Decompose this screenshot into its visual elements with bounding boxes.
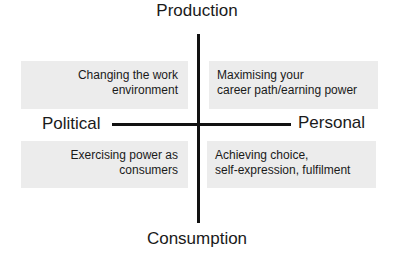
quadrant-text-line: environment <box>21 83 178 98</box>
axis-label-political: Political <box>42 114 101 134</box>
quadrant-text-line: Exercising power as <box>21 148 178 163</box>
axis-label-consumption: Consumption <box>0 229 394 249</box>
quadrant-text-line: Maximising your <box>217 68 378 83</box>
quadrant-top-right: Maximising your career path/earning powe… <box>209 61 378 109</box>
quadrant-top-left: Changing the work environment <box>21 61 188 109</box>
axis-label-production: Production <box>0 1 394 21</box>
quadrant-text-line: consumers <box>21 163 178 178</box>
quadrant-text-line: career path/earning power <box>217 83 378 98</box>
axis-label-personal: Personal <box>298 113 365 133</box>
quadrant-bottom-left: Exercising power as consumers <box>21 141 188 188</box>
horizontal-axis-line <box>112 123 291 126</box>
quadrant-text-line: Achieving choice, <box>215 148 376 163</box>
quadrant-bottom-right: Achieving choice, self-expression, fulfi… <box>207 141 376 188</box>
quadrant-text-line: Changing the work <box>21 68 178 83</box>
vertical-axis-line <box>197 34 200 223</box>
quadrant-text-line: self-expression, fulfilment <box>215 163 376 178</box>
